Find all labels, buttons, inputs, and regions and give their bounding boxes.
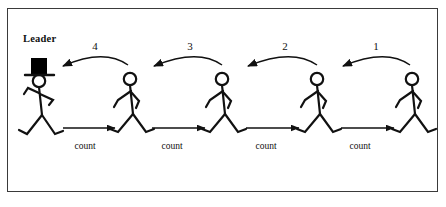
curved-arrow-label-4: 4 <box>85 40 105 52</box>
curved-arrow-label-1: 1 <box>366 40 386 52</box>
curved-arrow-label-2: 2 <box>275 40 295 52</box>
curved-arrow-label-3: 3 <box>180 40 200 52</box>
figure-root: Leader 4 3 2 1 count count count count <box>0 0 446 207</box>
count-label-2: count <box>150 141 194 151</box>
count-label-4: count <box>338 141 382 151</box>
count-label-3: count <box>244 141 288 151</box>
leader-label: Leader <box>23 33 56 44</box>
count-label-1: count <box>63 141 107 151</box>
figure-border <box>7 8 438 192</box>
